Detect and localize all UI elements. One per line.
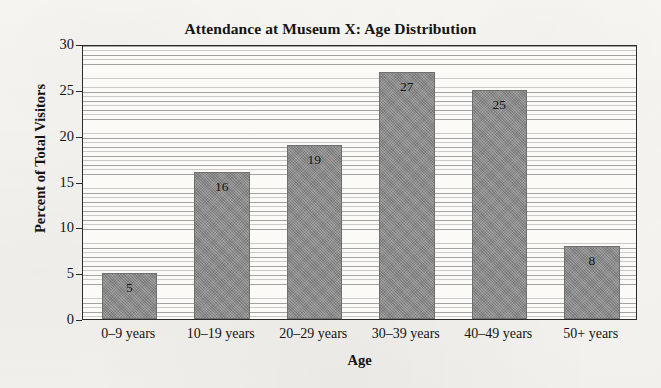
bar: 19 bbox=[287, 145, 343, 319]
plot-area: 5161927258 bbox=[82, 45, 637, 320]
y-axis-tick-label: 5 bbox=[38, 266, 74, 280]
bar: 8 bbox=[564, 246, 620, 319]
bar-value-label: 27 bbox=[380, 79, 434, 95]
bar: 25 bbox=[472, 90, 528, 319]
y-axis-tick-mark bbox=[76, 320, 82, 321]
x-axis-tick-label: 30–39 years bbox=[360, 326, 453, 342]
x-axis-tick-label: 10–19 years bbox=[175, 326, 268, 342]
y-axis-title: Percent of Total Visitors bbox=[32, 49, 49, 269]
y-axis-tick-label: 15 bbox=[38, 175, 74, 189]
bar: 27 bbox=[379, 72, 435, 320]
x-axis-title: Age bbox=[82, 352, 637, 369]
chart-page: Attendance at Museum X: Age Distribution… bbox=[0, 0, 661, 388]
x-axis-tick-label: 50+ years bbox=[545, 326, 638, 342]
x-axis-tick-label: 0–9 years bbox=[82, 326, 175, 342]
bar-value-label: 19 bbox=[288, 152, 342, 168]
bar-value-label: 8 bbox=[565, 253, 619, 269]
bar-value-label: 5 bbox=[103, 280, 157, 296]
bar: 5 bbox=[102, 273, 158, 319]
y-axis-tick-label: 0 bbox=[38, 312, 74, 326]
y-axis-tick-label: 10 bbox=[38, 220, 74, 234]
x-axis-tick-label: 40–49 years bbox=[452, 326, 545, 342]
chart-title: Attendance at Museum X: Age Distribution bbox=[0, 20, 661, 38]
bar: 16 bbox=[194, 172, 250, 319]
bar-value-label: 16 bbox=[195, 179, 249, 195]
bar-series: 5161927258 bbox=[83, 46, 636, 319]
y-axis-tick-label: 20 bbox=[38, 129, 74, 143]
y-axis-tick-label: 25 bbox=[38, 83, 74, 97]
bar-value-label: 25 bbox=[473, 97, 527, 113]
x-axis-tick-label: 20–29 years bbox=[267, 326, 360, 342]
y-axis-tick-label: 30 bbox=[38, 37, 74, 51]
